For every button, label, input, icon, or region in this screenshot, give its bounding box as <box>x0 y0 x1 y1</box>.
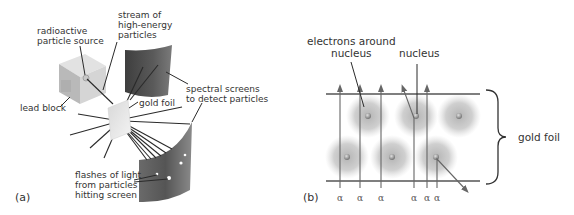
nucleus <box>456 113 462 119</box>
label-gold-foil: gold foil <box>139 98 175 108</box>
panel-a: radioactive particle source stream of hi… <box>15 10 268 204</box>
label-screens-1: spectral screens <box>186 84 260 94</box>
alpha-symbol: α <box>337 193 343 203</box>
nucleus <box>344 154 350 160</box>
label-radioactive-1: radioactive <box>37 26 88 36</box>
nucleus <box>389 154 395 160</box>
alpha-symbol: α <box>357 193 363 203</box>
spectral-screen-bottom <box>139 122 192 202</box>
label-stream-2: high-energy <box>118 20 173 30</box>
alpha-symbol: α <box>411 193 417 203</box>
panel-a-label: (a) <box>15 191 30 204</box>
label-flashes-2: from particles <box>75 180 138 190</box>
rutherford-diagram: radioactive particle source stream of hi… <box>0 0 574 215</box>
label-lead-block: lead block <box>20 103 67 113</box>
light-flash <box>179 161 182 164</box>
alpha-labels: α α α α α α <box>337 193 440 203</box>
light-flash <box>184 154 187 157</box>
label-nucleus: nucleus <box>399 47 440 59</box>
alpha-symbol: α <box>434 193 440 203</box>
alpha-symbol: α <box>378 193 384 203</box>
panel-b: electrons around nucleus nucleus gold fo… <box>303 35 560 204</box>
label-flashes-1: flashes of light <box>75 170 142 180</box>
label-electrons-1: electrons around <box>307 35 396 47</box>
alpha-symbol: α <box>424 193 430 203</box>
label-stream-3: particles <box>118 30 157 40</box>
panel-b-label: (b) <box>303 191 319 204</box>
label-flashes-3: hitting screen <box>75 190 137 200</box>
label-gold-foil-b: gold foil <box>518 131 560 143</box>
gold-foil-brace <box>486 90 506 184</box>
label-stream-1: stream of <box>118 10 162 20</box>
label-screens-2: to detect particles <box>186 94 268 104</box>
nucleus <box>433 154 439 160</box>
label-electrons-2: nucleus <box>331 47 372 59</box>
label-radioactive-2: particle source <box>37 36 104 46</box>
atoms <box>325 94 481 179</box>
nucleus <box>365 113 371 119</box>
